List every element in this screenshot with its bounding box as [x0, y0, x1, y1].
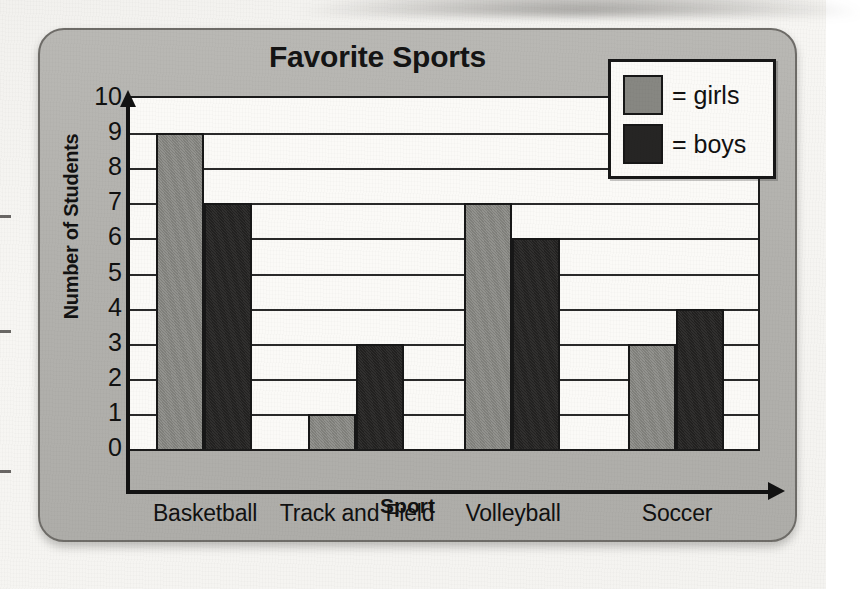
x-axis-line — [126, 490, 771, 494]
chart-legend: = girls = boys — [608, 59, 776, 179]
y-tick-label: 3 — [70, 327, 122, 356]
y-axis-arrow-icon — [120, 90, 136, 107]
y-tick-label: 0 — [70, 433, 122, 462]
bar-soccer-girls — [628, 344, 676, 449]
y-tick-label: 1 — [70, 397, 122, 426]
bar-basketball-girls — [156, 133, 204, 449]
y-tick-label: 10 — [70, 82, 122, 111]
margin-tick — [0, 215, 11, 218]
legend-label-girls: = girls — [672, 81, 739, 110]
legend-swatch-boys-icon — [623, 124, 663, 164]
y-tick-label: 8 — [70, 152, 122, 181]
margin-tick — [0, 470, 11, 473]
legend-item-boys: = boys — [623, 124, 763, 164]
y-tick-label: 9 — [70, 117, 122, 146]
bar-group — [308, 98, 406, 449]
bar-group — [464, 98, 562, 449]
margin-tick — [0, 330, 11, 333]
y-tick-label: 6 — [70, 222, 122, 251]
y-tick-label: 2 — [70, 362, 122, 391]
x-axis-arrow-icon — [768, 482, 785, 500]
y-tick-label: 7 — [70, 187, 122, 216]
chart-panel: Favorite Sports Number of Students Sport… — [38, 28, 797, 542]
bar-track-and-field-boys — [356, 344, 404, 449]
legend-label-boys: = boys — [672, 130, 746, 159]
page-scan-shadow — [300, 0, 860, 16]
y-axis-tick-labels: 109876543210 — [60, 30, 122, 540]
bar-basketball-boys — [204, 203, 252, 449]
bar-group — [156, 98, 254, 449]
bar-volleyball-girls — [464, 203, 512, 449]
bar-track-and-field-girls — [308, 414, 356, 449]
bar-soccer-boys — [676, 309, 724, 449]
x-tick-label: Soccer — [567, 500, 787, 527]
y-tick-label: 5 — [70, 257, 122, 286]
legend-swatch-girls-icon — [623, 75, 663, 115]
bar-volleyball-boys — [512, 238, 560, 449]
y-axis-line — [126, 104, 130, 494]
legend-item-girls: = girls — [623, 75, 763, 115]
y-tick-label: 4 — [70, 292, 122, 321]
